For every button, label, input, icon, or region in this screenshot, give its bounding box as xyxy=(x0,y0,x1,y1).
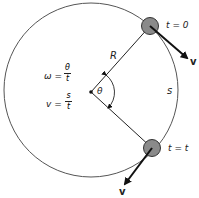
omega-numerator: θ xyxy=(65,64,70,72)
velocity-formula-fraction: s t xyxy=(65,92,72,111)
velocity-numerator: s xyxy=(66,92,70,100)
end-time-label: t = t xyxy=(168,144,188,153)
velocity-arrow-top xyxy=(150,26,187,58)
velocity-formula-lhs: v = xyxy=(46,100,62,109)
radius-label: R xyxy=(110,51,117,61)
angle-arc xyxy=(106,75,115,108)
velocity-label-bottom: v xyxy=(119,187,126,197)
radius-line-bottom xyxy=(91,92,152,148)
velocity-arrow-bottom xyxy=(125,148,152,184)
omega-formula-lhs: ω = xyxy=(44,72,62,81)
velocity-denominator: t xyxy=(67,103,70,111)
center-dot xyxy=(89,90,93,94)
omega-denominator: t xyxy=(66,75,69,83)
start-time-label: t = 0 xyxy=(166,21,189,30)
omega-formula-fraction: θ t xyxy=(64,64,71,83)
radius-line-top xyxy=(91,26,150,92)
arc-label: s xyxy=(167,86,172,96)
velocity-label-top: v xyxy=(190,57,197,67)
angle-label: θ xyxy=(97,87,103,96)
